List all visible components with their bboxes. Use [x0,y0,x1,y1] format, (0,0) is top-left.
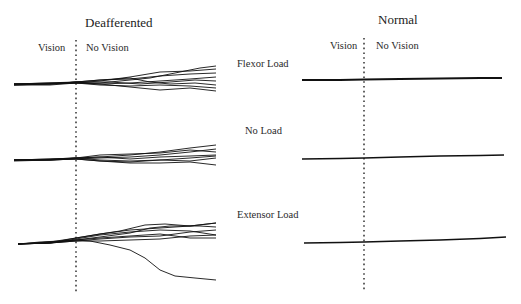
deafferented-flexor-traces [14,66,216,91]
deafferented-extensor-traces [18,223,216,280]
normal-noload-trace [302,155,504,159]
trace-line [18,240,216,280]
trajectory-plots [0,0,521,304]
normal-flexor-trace [302,78,502,80]
deafferented-noload-traces [14,145,216,165]
normal-extensor-trace [304,237,506,243]
